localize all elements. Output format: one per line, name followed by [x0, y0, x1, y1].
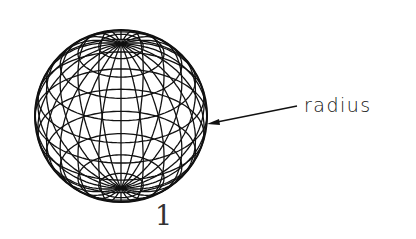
radius-label: radius — [304, 94, 372, 116]
figure-number: 1 — [155, 200, 172, 231]
wireframe-sphere — [35, 30, 207, 202]
leader-line — [212, 106, 297, 123]
arrowhead-icon — [207, 119, 220, 125]
sphere-diagram — [0, 0, 416, 239]
radius-leader — [207, 106, 297, 125]
